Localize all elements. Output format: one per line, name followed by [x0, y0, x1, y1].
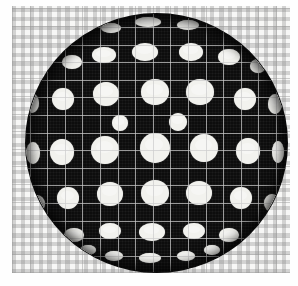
figure-scanned-sphere: [0, 0, 298, 286]
dark-sphere: [26, 14, 287, 272]
sphere-grid-overlay: [26, 14, 287, 272]
